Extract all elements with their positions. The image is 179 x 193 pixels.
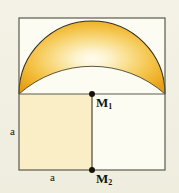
label-m1-base: M (96, 95, 108, 110)
label-m2-subscript: 2 (108, 178, 112, 187)
point-marker-m1 (89, 91, 95, 97)
label-m1-subscript: 1 (108, 102, 112, 111)
figure-canvas (0, 0, 179, 193)
point-marker-m2 (89, 167, 95, 173)
label-side-a-vertical: a (10, 126, 15, 137)
geometry-figure: M1 M2 a a (0, 0, 179, 193)
label-m1: M1 (96, 96, 112, 109)
label-m2: M2 (96, 172, 112, 185)
label-side-a-horizontal: a (50, 172, 55, 183)
label-m2-base: M (96, 171, 108, 186)
shaded-square-fill (19, 94, 92, 170)
